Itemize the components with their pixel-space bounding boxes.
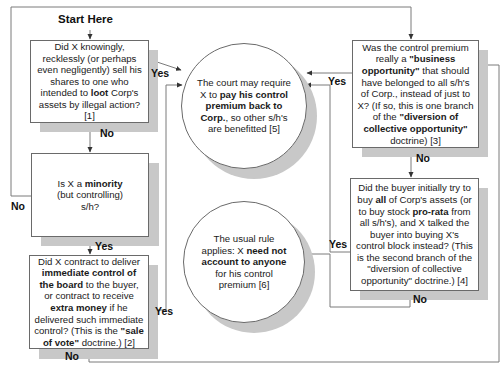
decision-box-business-opportunity: Was the control premium really a "busine… — [352, 40, 479, 148]
node-text: Did the buyer initially try to buy all o… — [355, 182, 474, 286]
node-text: Did X contract to deliver immediate cont… — [34, 256, 144, 349]
node-text: Did X knowingly, recklessly (or perhaps … — [35, 41, 144, 122]
node-text: The court may require X to pay his contr… — [196, 77, 292, 135]
edge-label-q2-yes: Yes — [95, 240, 113, 252]
result-circle-pay-back: The court may require X to pay his contr… — [181, 43, 307, 169]
decision-box-buyer-all-assets: Did the buyer initially try to buy all o… — [350, 178, 479, 291]
node-text: Is X a minority (but controlling) s/h? — [50, 178, 130, 213]
edge-label-q3-no: No — [65, 350, 79, 362]
edge-label-q4-yes: Yes — [328, 75, 346, 87]
start-here-label: Start Here — [58, 13, 113, 25]
decision-box-loot: Did X knowingly, recklessly (or perhaps … — [30, 40, 149, 123]
edge-label-q2-no: No — [11, 200, 25, 212]
result-circle-usual-rule: The usual rule applies: X need not accou… — [183, 201, 305, 323]
node-text: Was the control premium really a "busine… — [357, 42, 474, 146]
edge-label-q5-yes: Yes — [329, 238, 347, 250]
edge-label-q1-no: No — [100, 127, 114, 139]
edge-label-q3-yes: Yes — [155, 305, 173, 317]
node-text: The usual rule applies: X need not accou… — [198, 233, 290, 291]
decision-box-sale-of-vote: Did X contract to deliver immediate cont… — [29, 255, 149, 349]
edge-label-q5-no: No — [413, 293, 427, 305]
flowchart-canvas: Start Here Did X knowingly, recklessly (… — [0, 0, 504, 371]
decision-box-minority: Is X a minority (but controlling) s/h? — [31, 153, 149, 237]
edge-label-q4-no: No — [416, 152, 430, 164]
edge-label-q1-yes: Yes — [151, 67, 169, 79]
